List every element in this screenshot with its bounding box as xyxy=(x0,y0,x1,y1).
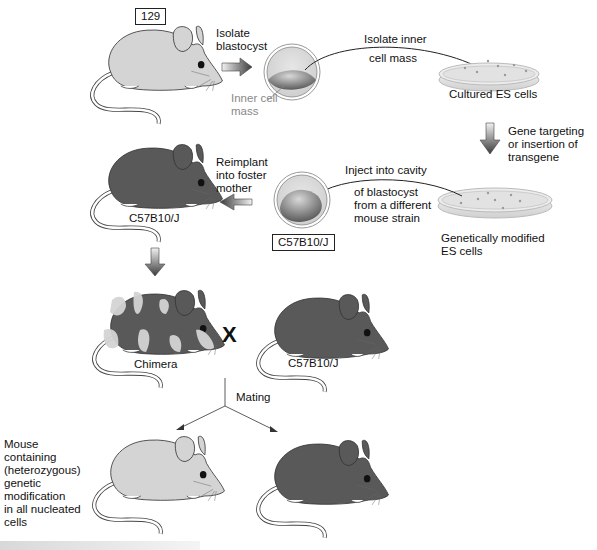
cultured-es-label: Cultured ES cells xyxy=(449,88,537,101)
cultured-es-dish xyxy=(439,60,539,91)
chimera-label: Chimera xyxy=(134,358,177,371)
inject-line4: mouse strain xyxy=(354,212,420,225)
step-isolate-blastocyst-line1: Isolate xyxy=(216,27,250,40)
offspring-mouse-wildtype xyxy=(258,440,388,537)
offspring-note-line7: cells xyxy=(4,516,27,529)
donor-mouse-129 xyxy=(92,26,222,123)
modified-es-line1: Genetically modified xyxy=(441,232,545,245)
reimplant-line3: mother xyxy=(216,182,252,195)
inner-cell-mass-line1: Inner cell xyxy=(231,92,278,105)
offspring-note-line6: in all nucleated xyxy=(4,503,81,516)
foster-mother-mouse xyxy=(92,144,222,241)
mating-branch xyxy=(180,378,274,430)
offspring-note-line5: modification xyxy=(4,490,65,503)
step-isolate-icm-line1: Isolate inner xyxy=(364,33,427,46)
gene-targeting-line2: or insertion of xyxy=(508,138,578,151)
inject-line1: Inject into cavity xyxy=(345,164,427,177)
modified-es-line2: ES cells xyxy=(441,245,483,258)
inject-line3: from a different xyxy=(354,199,431,212)
diagram-artwork xyxy=(0,0,597,550)
arrow-left-icon xyxy=(220,194,252,210)
offspring-note-line4: genetic xyxy=(4,477,41,490)
bottom-scan-edge xyxy=(0,541,200,550)
offspring-mouse-transgenic xyxy=(94,436,224,533)
mating-label: Mating xyxy=(236,391,271,404)
cross-symbol: X xyxy=(222,322,237,348)
step-isolate-blastocyst-line2: blastocyst xyxy=(216,40,267,53)
reimplant-line1: Reimplant xyxy=(216,156,268,169)
offspring-note-line3: (heterozygous) xyxy=(4,464,81,477)
gene-targeting-line1: Gene targeting xyxy=(508,125,584,138)
arrow-down-icon xyxy=(480,123,500,154)
inner-cell-mass-line2: mass xyxy=(231,105,258,118)
offspring-note-line1: Mouse xyxy=(4,438,39,451)
reimplant-line2: into foster xyxy=(216,169,267,182)
mate-mouse-c57 xyxy=(258,294,388,391)
strain-label-129: 129 xyxy=(135,8,166,25)
arrow-right-icon xyxy=(222,58,252,76)
offspring-note-line2: containing xyxy=(4,451,56,464)
mate-label: C57B10/J xyxy=(288,357,339,370)
arrow-down-icon xyxy=(145,248,165,276)
recipient-blastocyst xyxy=(274,172,330,228)
strain-label-recipient: C57B10/J xyxy=(272,234,335,251)
inject-line2: of blastocyst xyxy=(354,186,418,199)
gene-targeting-line3: transgene xyxy=(508,151,559,164)
foster-mother-label: C57B10/J xyxy=(129,212,180,225)
step-isolate-icm-line2: cell mass xyxy=(369,52,417,65)
